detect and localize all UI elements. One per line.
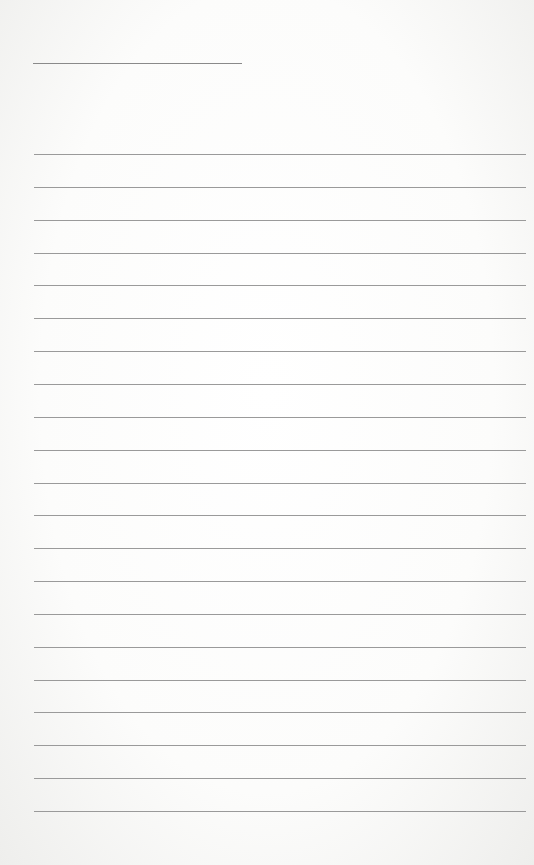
- lined-paper-page: [0, 0, 534, 865]
- ruled-line: [34, 581, 526, 582]
- ruled-line: [34, 154, 526, 155]
- ruled-line: [34, 253, 526, 254]
- ruled-line: [34, 515, 526, 516]
- ruled-line: [34, 187, 526, 188]
- ruled-line: [34, 384, 526, 385]
- ruled-line: [34, 712, 526, 713]
- ruled-line: [34, 450, 526, 451]
- ruled-line: [34, 778, 526, 779]
- ruled-line: [34, 417, 526, 418]
- ruled-line: [34, 811, 526, 812]
- ruled-line: [34, 318, 526, 319]
- ruled-line: [34, 548, 526, 549]
- title-blank-line: [33, 63, 242, 64]
- ruled-line: [34, 614, 526, 615]
- ruled-line: [34, 285, 526, 286]
- ruled-line: [34, 745, 526, 746]
- ruled-line: [34, 483, 526, 484]
- ruled-line: [34, 351, 526, 352]
- ruled-line: [34, 220, 526, 221]
- ruled-line: [34, 680, 526, 681]
- ruled-line: [34, 647, 526, 648]
